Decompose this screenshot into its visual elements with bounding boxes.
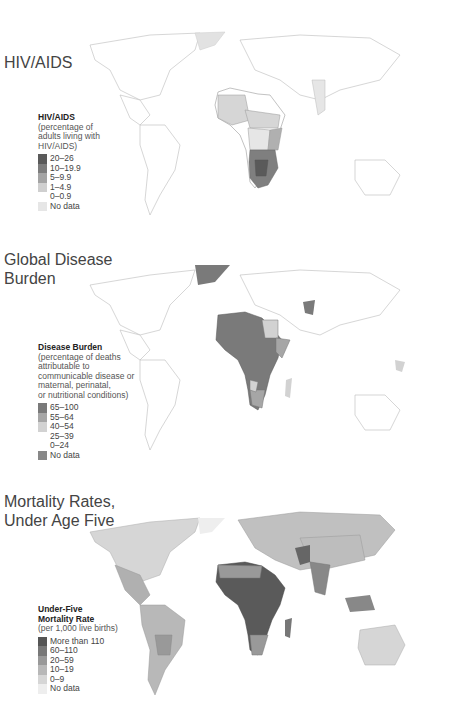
legend-label: No data [50,451,80,461]
legend-item: No data [38,451,134,461]
legend-item: No data [38,202,100,212]
legend-hiv: HIV/AIDS (percentage of adults living wi… [38,113,100,211]
map-title-disease-burden: Global Disease Burden [4,250,113,288]
legend-swatch [38,441,47,451]
legend-swatch [38,451,47,461]
legend-swatch [38,422,47,432]
map-title-hiv: HIV/AIDS [4,53,72,72]
title-line: Burden [4,269,113,288]
legend-swatch [38,183,47,193]
legend-swatch [38,646,47,656]
legend-subtitle: HIV/AIDS) [38,142,100,152]
legend-swatch [38,675,47,685]
map-title-mortality: Mortality Rates, Under Age Five [4,492,115,530]
map-panel-mortality: Mortality Rates, Under Age Five Under-Fi… [0,470,472,711]
map-panel-disease-burden: Global Disease Burden Disease Burden (pe… [0,240,472,470]
map-panel-hiv: HIV/AIDS HIV/AIDS (percentage of adults … [0,0,472,240]
title-line: Mortality Rates, [4,492,115,511]
legend-swatch [38,164,47,174]
legend-swatch [38,432,47,442]
legend-swatch [38,665,47,675]
legend-swatch [38,413,47,423]
legend-swatch [38,403,47,413]
legend-disease-burden: Disease Burden (percentage of deaths att… [38,343,134,460]
legend-swatch [38,173,47,183]
legend-label: No data [50,202,80,212]
legend-mortality: Under-Five Mortality Rate (per 1,000 liv… [38,605,118,694]
legend-swatch [38,192,47,202]
title-line: Under Age Five [4,511,115,530]
legend-swatch [38,656,47,666]
legend-swatch [38,202,47,212]
title-line: Global Disease [4,250,113,269]
legend-subtitle: or nutritional conditions) [38,391,134,401]
legend-item: No data [38,684,118,694]
legend-subtitle: (per 1,000 live births) [38,624,118,634]
legend-swatch [38,637,47,647]
legend-label: No data [50,684,80,694]
legend-swatch [38,684,47,694]
legend-swatch [38,154,47,164]
